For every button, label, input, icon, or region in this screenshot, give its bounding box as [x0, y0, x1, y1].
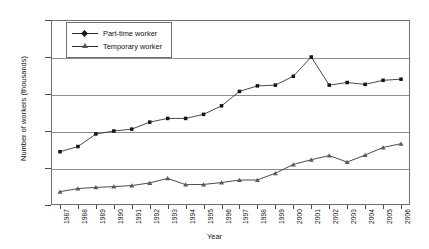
x-axis-tick-mark	[257, 205, 258, 209]
x-axis-tick-mark	[150, 205, 151, 209]
x-axis-tick-mark	[114, 205, 115, 209]
triangle-marker-icon	[72, 41, 98, 52]
data-point-marker	[345, 160, 350, 164]
x-axis-tick-mark	[60, 205, 61, 209]
data-point-marker	[363, 153, 368, 157]
x-axis-tick-label: 2001	[314, 209, 321, 224]
data-point-marker	[363, 83, 367, 87]
x-axis-tick-label: 1988	[81, 209, 88, 224]
x-axis-tick-mark	[239, 205, 240, 209]
x-axis-tick-mark	[168, 205, 169, 209]
x-axis-tick-label: 1995	[207, 209, 214, 224]
data-point-marker	[273, 171, 278, 175]
x-axis-title: Year	[0, 232, 429, 241]
x-axis-tick-mark	[293, 205, 294, 209]
data-point-marker	[220, 104, 224, 108]
data-point-marker	[256, 84, 259, 88]
data-point-marker	[148, 120, 152, 124]
legend-label-part-time: Part-time worker	[103, 29, 157, 38]
x-axis-tick-label: 2003	[350, 209, 357, 224]
data-point-marker	[238, 90, 242, 94]
x-axis-tick-mark	[204, 205, 205, 209]
data-point-marker	[112, 129, 116, 133]
data-point-marker	[398, 141, 403, 145]
x-axis-tick-label: 1999	[278, 209, 285, 224]
x-axis-tick-mark	[329, 205, 330, 209]
x-axis-tick-label: 1996	[225, 209, 232, 224]
x-axis-tick-label: 1990	[117, 209, 124, 224]
x-axis-tick-label: 2004	[368, 209, 375, 224]
legend-label-temporary: Temporary worker	[103, 42, 162, 51]
y-axis-tick-mark	[45, 205, 51, 206]
x-axis-tick-mark	[365, 205, 366, 209]
x-axis-tick-mark	[222, 205, 223, 209]
y-axis-title: Number of workers (thousands)	[19, 24, 28, 194]
x-axis-tick-mark	[383, 205, 384, 209]
series-line-part-time	[60, 57, 401, 152]
x-axis-tick-label: 1989	[99, 209, 106, 224]
x-axis-tick-label: 1991	[135, 209, 142, 224]
legend-item-part-time: Part-time worker	[72, 27, 162, 40]
data-point-marker	[274, 83, 278, 87]
legend-item-temporary: Temporary worker	[72, 40, 162, 53]
x-axis-tick-label: 2005	[386, 209, 393, 224]
x-axis-tick-label: 1997	[242, 209, 249, 224]
line-chart: Number of workers (thousands) 0500100015…	[0, 0, 429, 249]
x-axis-tick-label: 1993	[171, 209, 178, 224]
x-axis-tick-label: 1994	[189, 209, 196, 224]
data-point-marker	[58, 150, 62, 154]
x-axis-tick-label: 2002	[332, 209, 339, 224]
x-axis-tick-mark	[78, 205, 79, 209]
x-axis-tick-label: 1987	[63, 209, 70, 224]
data-point-marker	[184, 117, 188, 121]
x-axis-tick-mark	[275, 205, 276, 209]
x-axis-tick-label: 1992	[153, 209, 160, 224]
x-axis-tick-mark	[186, 205, 187, 209]
data-point-marker	[130, 127, 134, 130]
data-point-marker	[292, 74, 296, 78]
data-point-marker	[166, 117, 170, 121]
x-axis-tick-label: 1998	[260, 209, 267, 224]
data-point-marker	[165, 176, 170, 180]
x-axis-tick-mark	[311, 205, 312, 209]
x-axis-tick-label: 2006	[404, 209, 411, 224]
data-point-marker	[76, 145, 80, 149]
data-point-marker	[94, 132, 98, 136]
x-axis-tick-mark	[401, 205, 402, 209]
x-axis-tick-label: 2000	[296, 209, 303, 224]
data-point-marker	[381, 79, 385, 83]
x-axis-tick-mark	[132, 205, 133, 209]
data-point-marker	[345, 81, 349, 85]
data-point-marker	[399, 77, 403, 81]
chart-legend: Part-time worker Temporary worker	[66, 22, 172, 58]
data-point-marker	[310, 55, 314, 59]
data-point-marker	[327, 83, 331, 87]
diamond-marker-icon	[72, 28, 98, 39]
series-line-temporary	[60, 144, 401, 192]
x-axis-tick-mark	[96, 205, 97, 209]
data-point-marker	[327, 153, 332, 157]
x-axis-tick-mark	[347, 205, 348, 209]
data-point-marker	[202, 113, 206, 117]
